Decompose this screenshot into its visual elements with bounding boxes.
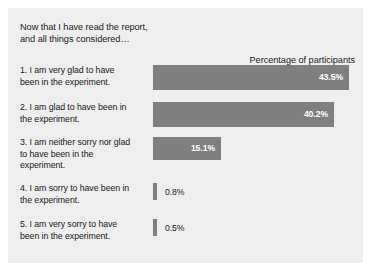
bar-row: 1. I am very glad to have been in the ex…	[8, 65, 363, 105]
bar-rect: 43.5%	[153, 65, 349, 90]
bar-category-label: 1. I am very glad to have been in the ex…	[20, 65, 152, 88]
bar-row: 5. I am very sorry to have been in the e…	[8, 219, 363, 255]
bar-value-label: 0.8%	[165, 187, 184, 197]
plot-area: 1. I am very glad to have been in the ex…	[8, 8, 363, 263]
bar-rect	[153, 183, 157, 200]
bar-category-label: 4. I am sorry to have been in the experi…	[20, 183, 152, 206]
bar-rect: 15.1%	[153, 137, 221, 160]
bar-category-label: 3. I am neither sorry nor glad to have b…	[20, 137, 152, 172]
bar-row: 2. I am glad to have been in the experim…	[8, 102, 363, 142]
bar-value-label: 0.5%	[165, 223, 184, 233]
bar-value-label: 40.2%	[304, 109, 328, 119]
bar-rect: 40.2%	[153, 102, 334, 127]
bar-rect	[153, 219, 157, 236]
bar-row: 3. I am neither sorry nor glad to have b…	[8, 137, 363, 182]
bar-value-label: 43.5%	[319, 72, 343, 82]
bar-value-label: 15.1%	[191, 143, 215, 153]
bar-category-label: 5. I am very sorry to have been in the e…	[20, 219, 152, 242]
bar-category-label: 2. I am glad to have been in the experim…	[20, 102, 152, 125]
chart-figure-panel: Now that I have read the report, and all…	[8, 8, 363, 263]
bar-row: 4. I am sorry to have been in the experi…	[8, 183, 363, 219]
